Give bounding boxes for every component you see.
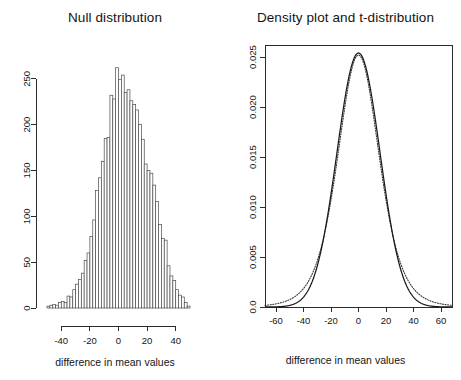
histogram-bar bbox=[167, 266, 170, 308]
histogram-bar bbox=[58, 302, 61, 308]
histogram-bar bbox=[156, 202, 159, 308]
histogram-bar bbox=[116, 68, 119, 308]
y-tick-label: 250 bbox=[21, 71, 32, 87]
histogram-bar bbox=[98, 178, 101, 308]
histogram-bar bbox=[81, 273, 84, 308]
x-tick-label: 40 bbox=[408, 315, 419, 326]
histogram-bar bbox=[130, 101, 133, 308]
histogram-bar bbox=[113, 99, 116, 308]
x-tick-label: -20 bbox=[324, 315, 338, 326]
density-curves-group bbox=[265, 53, 452, 307]
y-tick-label: 0.005 bbox=[247, 245, 258, 269]
histogram-bar bbox=[187, 306, 190, 308]
histogram-bar bbox=[78, 280, 81, 308]
x-tick-label: 0 bbox=[356, 315, 361, 326]
histogram-bar bbox=[161, 238, 164, 308]
y-tick-label: 100 bbox=[21, 208, 32, 224]
t-distribution-curve bbox=[265, 55, 452, 305]
y-tick-label: 0.020 bbox=[247, 95, 258, 119]
histogram-bar bbox=[90, 236, 93, 308]
y-tick-label: 0.025 bbox=[247, 45, 258, 69]
y-tick-label: 0.0 bbox=[247, 300, 258, 313]
y-tick-label: 200 bbox=[21, 117, 32, 133]
histogram-bar bbox=[179, 295, 182, 308]
x-tick-label: 0 bbox=[116, 335, 121, 346]
x-tick-label: 40 bbox=[170, 335, 181, 346]
histogram-bar bbox=[73, 290, 76, 308]
histogram-bars-group bbox=[47, 68, 190, 308]
panel-null-distribution: Null distribution 050100150200250-40-200… bbox=[0, 0, 230, 380]
x-tick-label: 60 bbox=[436, 315, 447, 326]
x-tick-label: -60 bbox=[269, 315, 283, 326]
histogram-bar bbox=[96, 191, 99, 308]
histogram-bar bbox=[159, 225, 162, 308]
y-tick-label: 0.010 bbox=[247, 195, 258, 219]
x-tick-label: 20 bbox=[142, 335, 153, 346]
histogram-bar bbox=[136, 110, 139, 308]
histogram-bar bbox=[107, 137, 110, 308]
histogram-bar bbox=[170, 276, 173, 308]
histogram-bar bbox=[127, 90, 130, 308]
histogram-bar bbox=[150, 173, 153, 308]
histogram-bar bbox=[64, 302, 67, 308]
x-axis-label-left: difference in mean values bbox=[0, 356, 230, 368]
x-tick-label: -20 bbox=[83, 335, 97, 346]
histogram-bar bbox=[61, 302, 64, 308]
x-tick-label: 20 bbox=[381, 315, 392, 326]
histogram-bar bbox=[153, 185, 156, 308]
y-tick-label: 150 bbox=[21, 163, 32, 179]
histogram-bar bbox=[110, 95, 113, 308]
x-axis-label-right: difference in mean values bbox=[230, 354, 461, 366]
histogram-bar bbox=[119, 80, 122, 308]
histogram-bar bbox=[173, 280, 176, 308]
histogram-bar bbox=[176, 290, 179, 308]
histogram-bar bbox=[181, 297, 184, 308]
histogram-bar bbox=[124, 93, 127, 308]
density-curve bbox=[265, 53, 452, 307]
histogram-bar bbox=[84, 260, 87, 308]
histogram-bar bbox=[133, 104, 136, 308]
histogram-bar bbox=[76, 284, 79, 308]
density-tdistribution-chart: 0.00.0050.0100.0150.0200.025-60-40-20020… bbox=[230, 0, 461, 380]
histogram-bar bbox=[141, 139, 144, 308]
right-axes-group bbox=[260, 45, 452, 312]
panel-density-tdistribution: Density plot and t-distribution 0.00.005… bbox=[230, 0, 461, 380]
histogram-bar bbox=[53, 304, 56, 308]
histogram-bar bbox=[104, 138, 107, 308]
histogram-bar bbox=[50, 305, 53, 308]
histogram-bar bbox=[47, 306, 50, 308]
histogram-bar bbox=[87, 253, 90, 308]
null-distribution-chart: 050100150200250-40-2002040 bbox=[0, 0, 230, 380]
x-tick-label: -40 bbox=[297, 315, 311, 326]
histogram-bar bbox=[147, 170, 150, 308]
histogram-bar bbox=[67, 296, 70, 308]
histogram-bar bbox=[139, 125, 142, 308]
x-tick-label: -40 bbox=[54, 335, 68, 346]
histogram-bar bbox=[144, 164, 147, 308]
y-tick-label: 50 bbox=[21, 257, 32, 268]
histogram-bar bbox=[56, 305, 59, 308]
y-tick-label: 0 bbox=[21, 305, 32, 310]
y-tick-label: 0.015 bbox=[247, 145, 258, 169]
histogram-bar bbox=[184, 302, 187, 308]
histogram-bar bbox=[93, 220, 96, 308]
histogram-bar bbox=[70, 297, 73, 308]
histogram-bar bbox=[121, 75, 124, 308]
histogram-bar bbox=[101, 161, 104, 308]
histogram-bar bbox=[164, 240, 167, 308]
plot-box-frame bbox=[265, 45, 452, 307]
